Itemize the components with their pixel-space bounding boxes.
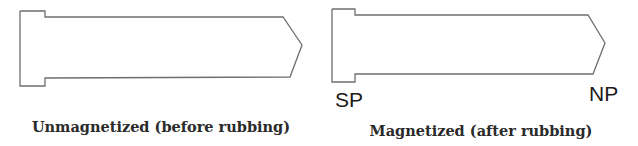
south-pole-label: SP (335, 89, 363, 110)
magnetized-caption: Magnetized (after rubbing) (370, 124, 593, 139)
north-pole-label: NP (589, 83, 618, 104)
magnetized-bar-outline (332, 9, 605, 82)
unmagnetized-bar-outline (20, 11, 302, 86)
unmagnetized-caption: Unmagnetized (before rubbing) (32, 120, 290, 135)
